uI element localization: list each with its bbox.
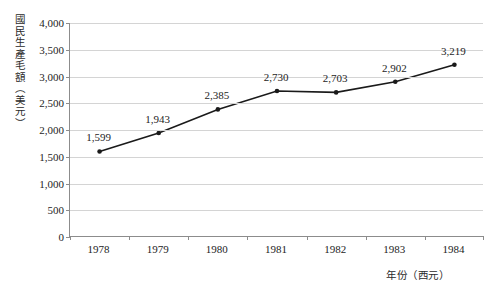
data-point-marker <box>97 149 102 154</box>
y-axis-tick-mark <box>66 103 70 104</box>
x-axis-tick-mark <box>247 236 248 240</box>
x-axis-tick-label: 1982 <box>324 243 346 255</box>
data-point-marker <box>216 107 221 112</box>
gridline <box>70 157 483 158</box>
gridline <box>70 130 483 131</box>
x-axis-tick-mark <box>483 236 484 240</box>
y-axis-tick-label: 1,500 <box>22 151 64 163</box>
y-axis-tick-labels: 05001,0001,5002,0002,5003,0003,5004,000 <box>22 0 64 295</box>
x-axis-tick-mark <box>425 236 426 240</box>
y-axis-tick-label: 3,500 <box>22 44 64 56</box>
data-point-label: 3,219 <box>441 45 466 57</box>
y-axis-tick-label: 0 <box>22 231 64 243</box>
y-axis-tick-mark <box>66 50 70 51</box>
gridline <box>70 184 483 185</box>
data-point-label: 1,943 <box>145 113 170 125</box>
y-axis-tick-label: 2,000 <box>22 124 64 136</box>
data-point-marker <box>452 62 457 67</box>
y-axis-tick-mark <box>66 23 70 24</box>
y-axis-tick-label: 4,000 <box>22 17 64 29</box>
y-axis-tick-label: 3,000 <box>22 71 64 83</box>
x-axis-tick-mark <box>129 236 130 240</box>
data-point-label: 2,730 <box>264 71 289 83</box>
gridline <box>70 103 483 104</box>
gridline <box>70 23 483 24</box>
x-axis-tick-label: 1983 <box>383 243 405 255</box>
x-axis-tick-label: 1980 <box>206 243 228 255</box>
x-axis-tick-label: 1981 <box>265 243 287 255</box>
y-axis-tick-label: 500 <box>22 204 64 216</box>
x-axis-tick-mark <box>307 236 308 240</box>
data-point-marker <box>393 79 398 84</box>
x-axis-tick-label: 1978 <box>88 243 110 255</box>
y-axis-tick-mark <box>66 157 70 158</box>
data-point-marker <box>156 131 161 136</box>
x-axis-tick-mark <box>188 236 189 240</box>
y-axis-tick-mark <box>66 210 70 211</box>
y-axis-tick-label: 2,500 <box>22 97 64 109</box>
y-axis-tick-label: 1,000 <box>22 178 64 190</box>
y-axis-title: 國民生產毛額（美元） <box>4 14 24 129</box>
x-axis-tick-label: 1984 <box>442 243 464 255</box>
data-point-label: 2,902 <box>382 62 407 74</box>
x-axis-tick-label: 1979 <box>147 243 169 255</box>
y-axis-tick-mark <box>66 130 70 131</box>
gridline <box>70 50 483 51</box>
x-axis-tick-labels: 1978197919801981198219831984 <box>69 243 483 261</box>
y-axis-tick-mark <box>66 184 70 185</box>
x-axis-tick-mark <box>70 236 71 240</box>
y-axis-tick-mark <box>66 77 70 78</box>
plot-area <box>69 23 483 237</box>
x-axis-tick-mark <box>366 236 367 240</box>
data-point-label: 2,703 <box>323 72 348 84</box>
gnp-line-chart: 國民生產毛額（美元） 05001,0001,5002,0002,5003,000… <box>0 0 495 295</box>
data-point-label: 2,385 <box>204 89 229 101</box>
data-point-marker <box>334 90 339 95</box>
gridline <box>70 210 483 211</box>
data-point-marker <box>275 89 280 94</box>
data-point-label: 1,599 <box>86 131 111 143</box>
x-axis-title: 年份（西元） <box>386 267 449 282</box>
